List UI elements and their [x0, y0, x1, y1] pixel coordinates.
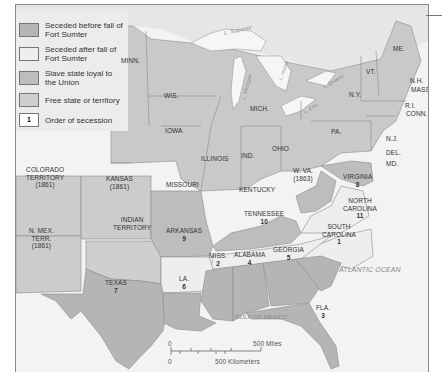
georgia-order: 5 [273, 254, 304, 262]
label-georgia: GEORGIA5 [273, 246, 304, 261]
label-tennessee: TENNESSEE10 [244, 210, 284, 225]
label-iowa: IOWA [165, 127, 183, 135]
indian-name: INDIAN [121, 216, 144, 223]
arkansas-name: ARKANSAS [166, 227, 202, 234]
label-nmex: N. MEX.TERR.(1861) [29, 227, 54, 250]
label-arkansas: ARKANSAS9 [166, 227, 202, 242]
label-south-carolina: SOUTHCAROLINA1 [322, 223, 356, 246]
label-md: MD. [386, 160, 398, 168]
nmex-name: N. MEX. [29, 227, 54, 234]
sc-name: SOUTH [327, 223, 350, 230]
label-nj: N.J. [386, 135, 398, 143]
legend-item-slave-loyal: Slave state loyal to the Union [19, 69, 123, 87]
label-atlantic-ocean: ATLANTIC OCEAN [339, 266, 401, 274]
label-indian-territory: INDIANTERRITORY [113, 216, 151, 231]
nc-name2: CAROLINA [343, 205, 377, 212]
colorado-year: (1861) [35, 181, 54, 188]
label-nh: N.H. [410, 77, 423, 85]
nc-order: 11 [343, 212, 377, 220]
label-vt: VT. [366, 68, 376, 76]
fla-order: 3 [316, 312, 330, 320]
label-gulf-of-mexico: GULF OF MEXICO [235, 314, 288, 322]
label-missouri: MISSOURI [166, 181, 199, 189]
texas-order: 7 [105, 287, 127, 295]
scale-zero-km: 0 [168, 358, 172, 366]
scale-km-label: 500 Kilometers [215, 358, 260, 366]
legend-label: Seceded before fall of Fort Sumter [45, 21, 123, 39]
sc-name2: CAROLINA [322, 231, 356, 238]
callout-line [426, 15, 442, 16]
virginia-order: 8 [343, 181, 372, 189]
label-kentucky: KENTUCKY [239, 186, 275, 194]
la-order: 6 [179, 283, 189, 291]
label-minn: MINN. [121, 57, 140, 65]
label-mich: MICH. [250, 105, 269, 113]
georgia-name: GEORGIA [273, 246, 304, 253]
label-north-carolina: NORTHCAROLINA11 [343, 197, 377, 220]
tennessee-name: TENNESSEE [244, 210, 284, 217]
label-ri: R.I. [405, 102, 416, 110]
label-kansas: KANSAS(1861) [106, 175, 133, 190]
label-conn: CONN. [406, 110, 427, 118]
label-del: DEL. [386, 149, 401, 157]
virginia-name: VIRGINIA [343, 173, 372, 180]
kansas-name: KANSAS [106, 175, 133, 182]
arkansas-order: 9 [166, 235, 202, 243]
label-illinois: ILLINOIS [201, 155, 229, 163]
label-texas: TEXAS7 [105, 279, 127, 294]
legend-item-seceded-before: Seceded before fall of Fort Sumter [19, 21, 123, 39]
tennessee-order: 10 [244, 218, 284, 226]
legend-label: Seceded after fall of Fort Sumter [45, 45, 123, 63]
label-ind: IND. [241, 152, 254, 160]
legend-swatch [19, 47, 39, 61]
scale-zero-miles: 0 [168, 340, 172, 348]
legend-label: Free state or territory [45, 96, 120, 105]
legend-swatch-number: 1 [19, 113, 39, 127]
legend-swatch [19, 93, 39, 107]
colorado-name: COLORADO [26, 166, 64, 173]
scale-miles-label: 500 Miles [253, 340, 282, 348]
label-pa: PA. [331, 128, 341, 136]
wva-name: W. VA. [293, 167, 313, 174]
legend-swatch [19, 23, 39, 37]
fla-name: FLA. [316, 304, 330, 311]
nc-name: NORTH [348, 197, 372, 204]
legend-item-order: 1 Order of secession [19, 113, 112, 127]
legend-label: Order of secession [45, 116, 112, 125]
label-me: ME. [393, 45, 405, 53]
legend-swatch [19, 71, 39, 85]
alabama-order: 4 [234, 259, 265, 267]
label-ny: N.Y. [349, 91, 361, 99]
map-frame: Seceded before fall of Fort Sumter Seced… [15, 4, 429, 372]
miss-name: MISS. [209, 252, 227, 259]
legend-item-free: Free state or territory [19, 93, 120, 107]
label-louisiana: LA.6 [179, 275, 189, 290]
label-wis: WIS. [164, 92, 178, 100]
label-alabama: ALABAMA4 [234, 251, 265, 266]
legend-item-seceded-after: Seceded after fall of Fort Sumter [19, 45, 123, 63]
legend-label: Slave state loyal to the Union [45, 69, 123, 87]
label-ohio: OHIO [272, 145, 289, 153]
indian-name2: TERRITORY [113, 224, 151, 231]
label-colorado: COLORADOTERRITORY(1861) [26, 166, 64, 189]
colorado-name2: TERRITORY [26, 174, 64, 181]
nmex-year: (1861) [32, 242, 51, 249]
label-mass: MASS. [411, 86, 429, 94]
nmex-name2: TERR. [31, 235, 51, 242]
label-florida: FLA.3 [316, 304, 330, 319]
wva-year: (1863) [293, 175, 312, 182]
label-mississippi: MISS.2 [209, 252, 227, 267]
map-legend: Seceded before fall of Fort Sumter Seced… [16, 11, 128, 131]
sc-order: 1 [322, 238, 356, 246]
kansas-year: (1861) [110, 183, 129, 190]
label-virginia: VIRGINIA8 [343, 173, 372, 188]
miss-order: 2 [209, 260, 227, 268]
la-name: LA. [179, 275, 189, 282]
texas-name: TEXAS [105, 279, 127, 286]
label-wva: W. VA.(1863) [293, 167, 313, 182]
alabama-name: ALABAMA [234, 251, 265, 258]
